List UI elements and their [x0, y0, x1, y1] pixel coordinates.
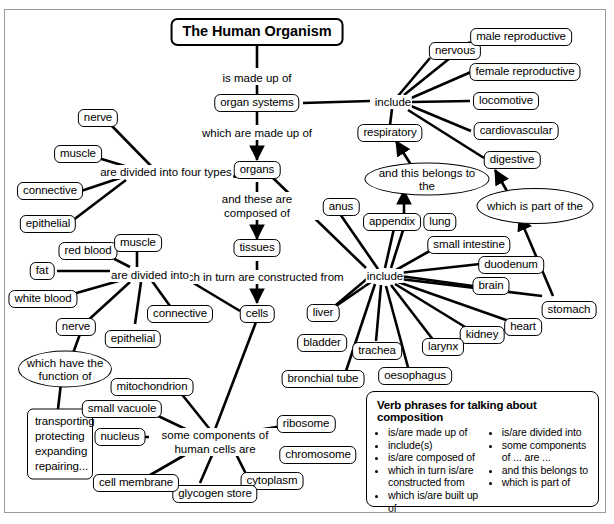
legend-item: and this belongs to: [502, 464, 590, 477]
node-cell-membrane[interactable]: cell membrane: [93, 474, 179, 492]
node-locomotive[interactable]: locomotive: [473, 92, 539, 110]
node-cells[interactable]: cells: [240, 305, 275, 323]
node-bronchial-tube[interactable]: bronchial tube: [282, 370, 365, 388]
node-male-reproductive[interactable]: male reproductive: [470, 28, 572, 46]
node-anus[interactable]: anus: [323, 198, 360, 216]
node-cell-white-blood[interactable]: white blood: [8, 290, 77, 308]
ellipse-and-this-belongs-to-the[interactable]: and this belongs to the: [365, 163, 490, 196]
node-larynx[interactable]: larynx: [422, 338, 464, 356]
legend-item: include(s): [388, 439, 485, 452]
legend-item: is/are composed of: [388, 451, 485, 464]
node-bladder[interactable]: bladder: [297, 334, 347, 352]
node-heart[interactable]: heart: [504, 318, 542, 336]
node-cell-muscle[interactable]: muscle: [114, 234, 162, 252]
node-the-human-organism[interactable]: The Human Organism: [171, 18, 344, 46]
legend-item: is/are divided into: [502, 426, 590, 439]
node-tissue-muscle[interactable]: muscle: [54, 145, 102, 163]
ellipse-which-have-the-function-of[interactable]: which have the function of: [18, 351, 112, 388]
node-cell-nerve[interactable]: nerve: [56, 318, 96, 336]
node-tissue-epithelial[interactable]: epithelial: [20, 215, 76, 233]
node-digestive[interactable]: digestive: [484, 151, 541, 169]
legend-column-right: is/are divided into some components of .…: [491, 426, 590, 514]
node-kidney[interactable]: kidney: [460, 326, 505, 344]
node-cardiovascular[interactable]: cardiovascular: [474, 122, 559, 140]
node-liver[interactable]: liver: [307, 304, 340, 322]
node-cell-red-blood[interactable]: red blood: [58, 242, 117, 260]
concept-map-page: The Human Organism is made up of organ s…: [0, 0, 614, 524]
legend-item: some components of ... are ...: [502, 439, 590, 464]
legend-column-left: is/are made up of include(s) is/are comp…: [377, 426, 485, 514]
legend-item: which in turn is/are constructed from: [388, 464, 485, 489]
legend-item: which is/are built up of: [388, 489, 485, 514]
node-tissue-connective[interactable]: connective: [17, 182, 83, 200]
linker-is-made-up-of: is made up of: [221, 71, 292, 85]
node-mitochondrion[interactable]: mitochondrion: [111, 378, 194, 396]
node-organ-systems[interactable]: organ systems: [214, 94, 299, 112]
node-appendix[interactable]: appendix: [363, 213, 421, 231]
linker-some-components-of-human-cells-are: some components of human cells are: [149, 428, 281, 456]
node-stomach[interactable]: stomach: [542, 301, 597, 319]
node-glycogen-store[interactable]: glycogen store: [172, 485, 257, 503]
linker-include-organ-systems: include: [374, 95, 412, 109]
linker-which-in-turn-are-constructed-from: which in turn are constructed from: [169, 270, 344, 284]
node-lung[interactable]: lung: [423, 213, 456, 231]
legend-box: Verb phrases for talking about compositi…: [366, 391, 599, 507]
node-cell-epithelial[interactable]: epithelial: [105, 330, 161, 348]
node-tissues[interactable]: tissues: [233, 239, 280, 257]
ellipse-which-is-part-of-the[interactable]: which is part of the: [477, 188, 594, 224]
linker-are-divided-into-four-types: are divided into four types: [99, 165, 233, 179]
node-female-reproductive[interactable]: female reproductive: [469, 63, 580, 81]
linker-and-these-are-composed-of: and these are composed of: [196, 192, 318, 220]
legend-item: which is part of: [502, 476, 590, 489]
node-small-intestine[interactable]: small intestine: [427, 236, 510, 254]
linker-which-are-made-up-of: which are made up of: [201, 126, 313, 140]
node-cell-functions[interactable]: transporting protecting expanding repair…: [27, 409, 93, 480]
node-nucleus[interactable]: nucleus: [95, 428, 146, 446]
node-ribosome[interactable]: ribosome: [277, 415, 336, 433]
node-chromosome[interactable]: chromosome: [279, 446, 356, 464]
node-respiratory[interactable]: respiratory: [357, 124, 422, 142]
node-brain[interactable]: brain: [472, 277, 509, 295]
linker-are-divided-into: are divided into: [110, 268, 190, 282]
node-oesophagus[interactable]: oesophagus: [378, 367, 452, 385]
linker-include-organs: include: [366, 269, 404, 283]
node-organs[interactable]: organs: [234, 161, 281, 179]
node-cell-fat[interactable]: fat: [30, 262, 55, 280]
legend-item: is/are made up of: [388, 426, 485, 439]
node-trachea[interactable]: trachea: [352, 342, 402, 360]
node-small-vacuole[interactable]: small vacuole: [82, 400, 162, 418]
node-duodenum[interactable]: duodenum: [478, 256, 544, 274]
node-cell-connective[interactable]: connective: [147, 305, 213, 323]
node-tissue-nerve[interactable]: nerve: [78, 109, 118, 127]
legend-title: Verb phrases for talking about compositi…: [377, 399, 590, 423]
